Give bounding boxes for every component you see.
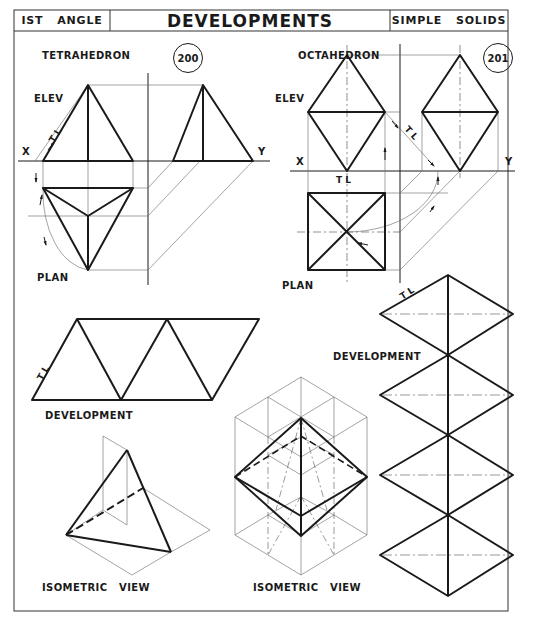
plate-number-badge-200: 200 — [173, 43, 203, 73]
tetrahedron-title: TETRAHEDRON — [42, 50, 130, 61]
plate-number-badge-201: 201 — [483, 43, 513, 73]
tetrahedron-elev-label: ELEV — [34, 93, 63, 104]
engineering-drawing — [0, 0, 540, 629]
octahedron-elev-label: ELEV — [275, 93, 304, 104]
subject-label: SIMPLE SOLIDS — [390, 10, 508, 31]
projection-angle-label: IST ANGLE — [14, 10, 110, 31]
tetrahedron-isometric — [66, 436, 210, 575]
octahedron-x-label: X — [296, 156, 304, 167]
octahedron-development — [380, 275, 513, 596]
octahedron-y-label: Y — [505, 156, 513, 167]
tetrahedron-development-label: DEVELOPMENT — [45, 410, 133, 421]
octahedron-isometric — [235, 377, 367, 575]
octahedron-title: OCTAHEDRON — [298, 50, 380, 61]
octahedron-isometric-label: ISOMETRIC VIEW — [253, 582, 361, 593]
octahedron-projection — [290, 44, 515, 283]
tetrahedron-projection — [18, 73, 270, 285]
page-title: DEVELOPMENTS — [110, 10, 390, 31]
octahedron-base-tl-mark: T L — [336, 175, 351, 185]
tetrahedron-plan-label: PLAN — [37, 272, 68, 283]
drawing-sheet: IST ANGLE DEVELOPMENTS SIMPLE SOLIDS TET… — [0, 0, 540, 629]
tetrahedron-isometric-label: ISOMETRIC VIEW — [42, 582, 150, 593]
octahedron-plan-label: PLAN — [282, 280, 313, 291]
tetrahedron-x-label: X — [22, 146, 30, 157]
octahedron-development-label: DEVELOPMENT — [333, 351, 421, 362]
tetrahedron-y-label: Y — [258, 146, 266, 157]
tetrahedron-development — [32, 319, 259, 400]
